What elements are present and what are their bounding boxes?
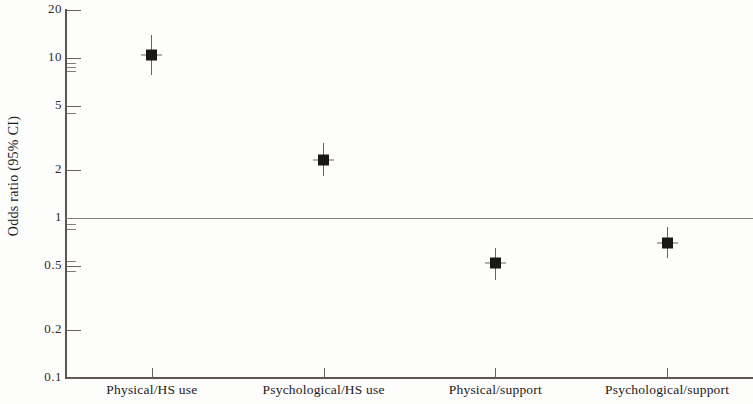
data-point-2	[495, 248, 496, 280]
y-minor-tick	[67, 224, 76, 225]
data-point-3	[667, 227, 668, 259]
marker-2	[490, 258, 501, 269]
y-tick-label-10: 10	[16, 49, 62, 65]
x-tick	[152, 368, 153, 378]
odds-ratio-forest-plot: Odds ratio (95% CI) 20105210.50.20.1 Phy…	[0, 0, 753, 404]
y-tick-0-5	[67, 266, 81, 267]
y-tick-label-1: 1	[16, 209, 62, 225]
marker-3	[662, 237, 673, 248]
y-tick-label-0-1: 0.1	[16, 369, 62, 385]
x-axis-label-0: Physical/HS use	[106, 382, 197, 398]
y-minor-tick	[67, 261, 76, 262]
y-minor-tick	[67, 67, 76, 68]
x-axis-label-3: Psychological/support	[605, 382, 729, 398]
y-tick-0-2	[67, 330, 81, 331]
y-minor-tick	[67, 63, 76, 64]
y-tick-label-5: 5	[16, 97, 62, 113]
y-tick-20	[67, 10, 81, 11]
y-minor-tick	[67, 229, 76, 230]
marker-0	[146, 49, 157, 60]
y-minor-tick	[67, 271, 76, 272]
y-tick-5	[67, 106, 81, 107]
x-axis-label-2: Physical/support	[449, 382, 542, 398]
reference-line-or-1	[66, 218, 753, 219]
y-tick-2	[67, 170, 81, 171]
x-tick	[495, 368, 496, 378]
y-minor-tick	[67, 113, 76, 114]
x-tick	[667, 368, 668, 378]
data-point-1	[323, 143, 324, 176]
y-tick-label-2: 2	[16, 161, 62, 177]
x-axis-line	[65, 377, 753, 379]
y-minor-tick	[67, 71, 76, 72]
y-tick-label-0-5: 0.5	[16, 257, 62, 273]
y-tick-label-0-2: 0.2	[16, 321, 62, 337]
x-axis-label-1: Psychological/HS use	[263, 382, 385, 398]
data-point-0	[151, 35, 152, 75]
y-tick-0-1	[67, 378, 81, 379]
y-tick-10	[67, 58, 81, 59]
y-axis-line	[65, 9, 67, 379]
x-tick	[324, 368, 325, 378]
y-tick-label-20: 20	[16, 1, 62, 17]
marker-1	[318, 155, 329, 166]
